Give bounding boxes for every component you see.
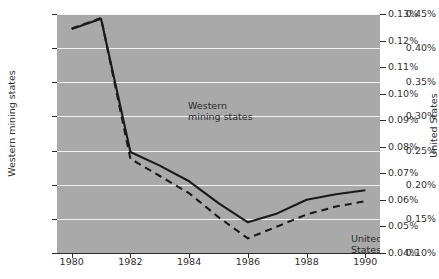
y-axis-right-tick xyxy=(380,226,386,227)
x-axis-line xyxy=(57,253,381,254)
y-axis-right-tick-label: 0.05% xyxy=(388,221,434,230)
y-axis-left-tick xyxy=(52,185,57,186)
y-axis-left-tick-label: 0.20% xyxy=(388,180,436,189)
y-axis-left-tick xyxy=(52,151,57,152)
y-axis-left-tick xyxy=(52,116,57,117)
y-axis-right-tick-label: 0.06% xyxy=(388,195,434,204)
y-axis-right-tick xyxy=(380,147,386,148)
plot-area: Western mining states United States xyxy=(57,14,380,253)
annotation-western-line1: Western xyxy=(188,100,253,111)
y-axis-right-tick-label: 0.12% xyxy=(388,36,434,45)
y-axis-left-tick xyxy=(52,14,57,15)
y-axis-right-tick xyxy=(380,173,386,174)
x-axis-tick-label: 1986 xyxy=(225,256,271,267)
y-axis-right-tick xyxy=(380,14,386,15)
y-axis-left-tick xyxy=(52,219,57,220)
y-axis-right-tick xyxy=(380,200,386,201)
y-axis-right-tick xyxy=(380,94,386,95)
y-axis-right-tick xyxy=(380,253,386,254)
annotation-western-line2: mining states xyxy=(188,111,253,122)
y-axis-right-tick-label: 0.04% xyxy=(388,248,434,257)
y-axis-right-tick-label: 0.13% xyxy=(388,9,434,18)
x-axis-tick-label: 1980 xyxy=(49,256,95,267)
x-axis-tick-label: 1990 xyxy=(342,256,388,267)
series-layer xyxy=(57,14,380,253)
annotation-western-mining-states: Western mining states xyxy=(188,100,253,122)
x-axis-tick-label: 1982 xyxy=(107,256,153,267)
x-axis-tick-label: 1988 xyxy=(284,256,330,267)
y-axis-right-tick xyxy=(380,41,386,42)
y-axis-right-title: United States xyxy=(428,71,439,181)
x-axis-tick-label: 1984 xyxy=(166,256,212,267)
y-axis-right-tick xyxy=(380,120,386,121)
y-axis-left-tick xyxy=(52,253,57,254)
series-line-united-states xyxy=(72,18,366,238)
y-axis-left-tick xyxy=(52,48,57,49)
y-axis-left-title: Western mining states xyxy=(6,69,17,179)
y-axis-right-tick xyxy=(380,67,386,68)
annotation-united-states: United States xyxy=(351,233,380,253)
y-axis-left-tick xyxy=(52,82,57,83)
